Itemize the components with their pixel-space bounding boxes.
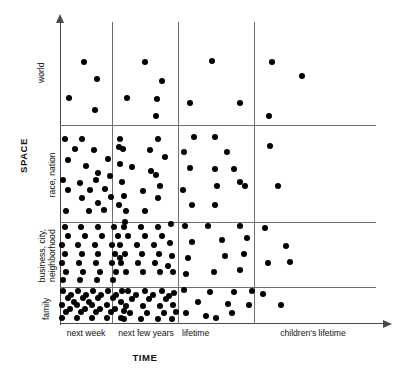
data-point — [144, 310, 151, 317]
data-point — [237, 267, 244, 274]
data-point — [157, 303, 164, 310]
data-point — [62, 251, 69, 258]
data-point — [62, 136, 69, 143]
data-point — [195, 299, 202, 306]
data-point — [189, 202, 196, 209]
data-point — [76, 260, 83, 267]
data-point — [79, 251, 86, 258]
data-point — [219, 237, 226, 244]
data-point — [90, 288, 97, 295]
data-point — [125, 233, 132, 240]
data-point — [182, 223, 189, 230]
data-point — [95, 251, 102, 258]
data-point — [170, 302, 177, 309]
data-point — [95, 170, 102, 177]
data-point — [140, 269, 147, 276]
data-point — [117, 242, 124, 249]
data-point — [169, 253, 176, 260]
data-point — [65, 233, 72, 240]
data-point — [155, 136, 162, 143]
data-point — [138, 316, 145, 323]
data-point — [121, 224, 128, 231]
data-point — [99, 233, 106, 240]
data-point — [231, 166, 238, 173]
data-point — [159, 233, 166, 240]
data-point — [211, 269, 218, 276]
data-point — [104, 315, 111, 322]
data-point — [75, 288, 82, 295]
data-point — [287, 259, 294, 266]
data-point — [155, 195, 162, 202]
data-point — [65, 157, 72, 164]
data-point — [207, 289, 214, 296]
data-point — [77, 180, 84, 187]
data-point — [187, 165, 194, 172]
data-point — [134, 242, 141, 249]
data-point — [142, 59, 149, 66]
data-point — [155, 316, 162, 323]
data-point — [93, 260, 100, 267]
space-time-matrix-figure: SPACE TIME world race, nation business, … — [0, 0, 394, 370]
data-point — [86, 208, 93, 215]
data-point — [231, 289, 238, 296]
data-point — [105, 288, 112, 295]
data-point — [299, 73, 306, 80]
data-point — [91, 147, 98, 154]
data-point — [191, 134, 198, 141]
data-point — [113, 292, 120, 299]
data-point — [95, 200, 102, 207]
data-point — [214, 183, 221, 190]
data-point — [123, 303, 130, 310]
data-point — [120, 146, 127, 153]
data-point — [59, 302, 66, 309]
data-point — [66, 95, 73, 102]
data-point — [122, 251, 129, 258]
data-point — [101, 207, 108, 214]
data-point — [102, 186, 109, 193]
data-point — [229, 310, 236, 317]
data-point — [265, 260, 272, 267]
data-point — [161, 310, 168, 317]
data-point — [205, 223, 212, 230]
data-point — [116, 202, 123, 209]
data-point — [63, 208, 70, 215]
data-point — [213, 315, 220, 322]
data-point — [104, 302, 111, 309]
data-point — [98, 292, 105, 299]
data-point — [183, 271, 190, 278]
data-point — [153, 113, 160, 120]
data-point — [87, 187, 94, 194]
data-point — [83, 163, 90, 170]
data-point — [80, 269, 87, 276]
data-point — [185, 255, 192, 262]
data-point — [241, 251, 248, 258]
data-point — [180, 187, 187, 194]
data-point — [107, 173, 114, 180]
data-point — [97, 269, 104, 276]
data-point — [167, 240, 174, 247]
data-point — [142, 288, 149, 295]
data-point — [94, 277, 101, 284]
data-point — [112, 306, 119, 313]
data-point — [165, 263, 172, 270]
data-point — [135, 260, 142, 267]
data-point — [189, 239, 196, 246]
data-point — [242, 183, 249, 190]
data-point — [59, 242, 66, 249]
data-point — [79, 136, 86, 143]
data-point — [127, 310, 134, 317]
data-point — [222, 253, 229, 260]
data-point — [95, 224, 102, 231]
dot-plot-area — [0, 0, 394, 370]
data-point — [225, 301, 232, 308]
data-point — [123, 269, 130, 276]
data-point — [129, 164, 136, 171]
data-point — [124, 95, 131, 102]
data-point — [92, 107, 99, 114]
data-point — [68, 292, 75, 299]
data-point — [140, 188, 147, 195]
data-point — [283, 243, 290, 250]
data-point — [59, 315, 66, 322]
data-point — [123, 208, 130, 215]
data-point — [74, 315, 81, 322]
